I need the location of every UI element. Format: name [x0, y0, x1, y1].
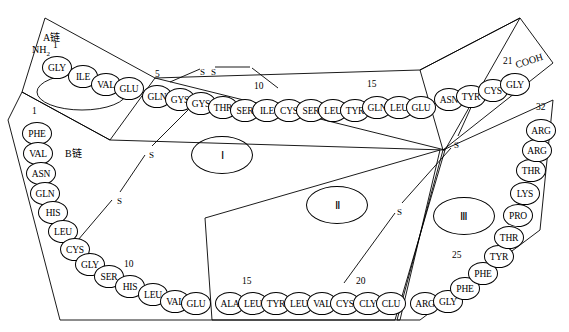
disulfide-s-right-upper: S: [454, 140, 459, 150]
residue-b27: THR: [494, 226, 524, 249]
disulfide-s-right-lower: S: [397, 207, 402, 217]
region-two: Ⅱ: [306, 186, 368, 224]
disulfide-s-top-right: S: [211, 67, 216, 77]
number-b-32: 32: [536, 102, 546, 112]
insulin-structure-diagram: A链 NH2 COOH B链 GLYILEVALGLUGLNGYSGYSTHRS…: [0, 0, 569, 332]
disulfide-s-left-upper: S: [149, 150, 154, 160]
bond-line-right-lower-2: [344, 213, 395, 283]
bond-line-top: [170, 69, 200, 82]
residue-a21: GLY: [500, 73, 530, 96]
residue-b28: PRO: [503, 204, 533, 227]
number-a-15: 15: [367, 79, 377, 89]
residue-b13: GLU: [181, 292, 211, 315]
bond-line-left-long-3: [78, 200, 112, 240]
residue-a17: GLU: [406, 96, 436, 119]
disulfide-s-left-lower: S: [117, 196, 122, 206]
number-b-20: 20: [356, 276, 366, 286]
n-terminus-label: NH2: [32, 44, 50, 58]
residue-b29: LYS: [510, 182, 540, 205]
number-a-1: 1: [53, 40, 58, 50]
number-a-21: 21: [503, 56, 513, 66]
bond-line-left-long: [152, 106, 192, 146]
chain-b-label: B链: [65, 145, 82, 160]
number-b-10: 10: [124, 259, 134, 269]
outline-chain-a-top-band: [155, 18, 520, 150]
outline-chain-b-outer: [8, 92, 445, 320]
residue-b31: ARG: [522, 139, 552, 162]
region-three: Ⅲ: [433, 197, 495, 235]
bond-line-left-long-2: [120, 155, 145, 192]
number-b-15: 15: [242, 276, 252, 286]
residue-b32: ARG: [526, 119, 556, 142]
residue-b21: CLU: [376, 292, 406, 315]
number-a-10: 10: [254, 81, 264, 91]
number-b-25: 25: [452, 250, 462, 260]
number-a-5: 5: [155, 69, 160, 79]
region-one: Ⅰ: [191, 136, 253, 174]
bond-line-right-lower: [402, 148, 451, 203]
number-b-1: 1: [32, 106, 37, 116]
disulfide-s-top-left: S: [200, 67, 205, 77]
residue-b30: THR: [516, 159, 546, 182]
residue-a4: GLU: [114, 77, 144, 100]
